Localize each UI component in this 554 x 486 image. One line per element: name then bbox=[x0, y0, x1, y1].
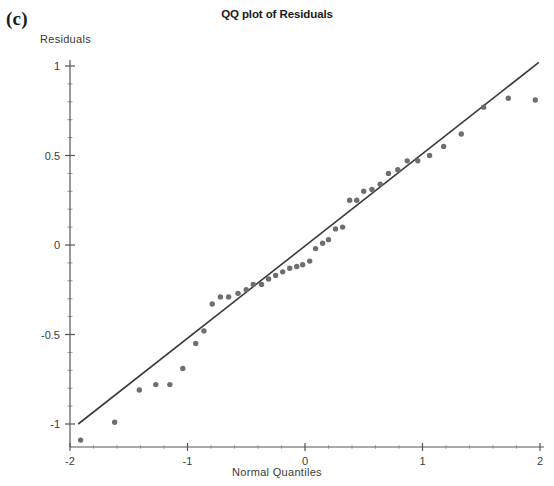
data-point bbox=[226, 294, 231, 299]
data-point bbox=[273, 273, 278, 278]
plot-canvas: -1-0.500.51-2-1012 bbox=[0, 0, 554, 486]
data-point bbox=[218, 294, 223, 299]
data-point bbox=[333, 226, 338, 231]
data-point bbox=[427, 153, 432, 158]
data-point bbox=[167, 382, 172, 387]
data-point bbox=[347, 198, 352, 203]
data-point bbox=[506, 96, 511, 101]
data-point bbox=[259, 282, 264, 287]
data-point bbox=[378, 181, 383, 186]
data-point bbox=[313, 246, 318, 251]
data-point bbox=[244, 287, 249, 292]
x-tick-label: 1 bbox=[419, 455, 425, 467]
data-point bbox=[153, 382, 158, 387]
data-point bbox=[294, 264, 299, 269]
data-point bbox=[251, 282, 256, 287]
data-point bbox=[481, 104, 486, 109]
data-point bbox=[287, 266, 292, 271]
data-point bbox=[326, 237, 331, 242]
x-tick-label: 0 bbox=[302, 455, 308, 467]
data-point bbox=[415, 158, 420, 163]
data-point bbox=[441, 144, 446, 149]
data-point bbox=[369, 187, 374, 192]
ticks-group bbox=[65, 66, 540, 451]
data-point bbox=[201, 328, 206, 333]
y-tick-label: 0.5 bbox=[45, 150, 60, 162]
x-tick-label: -2 bbox=[65, 455, 75, 467]
data-point bbox=[112, 420, 117, 425]
y-tick-label: -0.5 bbox=[41, 329, 60, 341]
data-point bbox=[137, 387, 142, 392]
data-point bbox=[361, 189, 366, 194]
data-point bbox=[405, 158, 410, 163]
data-point bbox=[209, 301, 214, 306]
data-points-group bbox=[78, 96, 538, 443]
x-tick-label: 2 bbox=[537, 455, 543, 467]
qq-plot-figure: (c) QQ plot of Residuals Residuals Norma… bbox=[0, 0, 554, 486]
y-tick-label: 0 bbox=[54, 239, 60, 251]
data-point bbox=[340, 224, 345, 229]
data-point bbox=[307, 258, 312, 263]
y-tick-label: -1 bbox=[50, 418, 60, 430]
y-tick-label: 1 bbox=[54, 60, 60, 72]
normal-reference-line bbox=[78, 62, 539, 424]
data-point bbox=[533, 97, 538, 102]
data-point bbox=[320, 241, 325, 246]
x-tick-label: -1 bbox=[183, 455, 193, 467]
data-point bbox=[300, 262, 305, 267]
data-point bbox=[180, 366, 185, 371]
reference-line-group bbox=[78, 62, 539, 424]
tick-labels-group: -1-0.500.51-2-1012 bbox=[41, 60, 543, 467]
data-point bbox=[395, 167, 400, 172]
data-point bbox=[193, 341, 198, 346]
data-point bbox=[386, 171, 391, 176]
data-point bbox=[459, 131, 464, 136]
data-point bbox=[235, 291, 240, 296]
data-point bbox=[354, 198, 359, 203]
data-point bbox=[266, 276, 271, 281]
data-point bbox=[280, 269, 285, 274]
data-point bbox=[78, 437, 83, 442]
